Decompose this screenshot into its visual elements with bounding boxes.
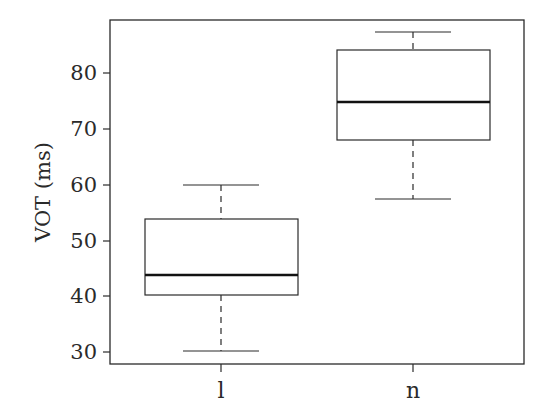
y-axis-label: VOT (ms) xyxy=(31,142,55,243)
box-l xyxy=(145,185,298,351)
y-axis xyxy=(103,73,110,352)
iqr-box-l xyxy=(145,219,298,295)
y-tick-label: 80 xyxy=(70,61,97,85)
y-tick-label: 70 xyxy=(70,117,97,141)
box-n xyxy=(337,32,490,199)
y-tick-labels: 80 70 60 50 40 30 xyxy=(70,61,97,364)
y-tick-label: 50 xyxy=(70,229,97,253)
y-tick-label: 40 xyxy=(70,284,97,308)
y-tick-label: 60 xyxy=(70,173,97,197)
y-tick-label: 30 xyxy=(70,340,97,364)
iqr-box-n xyxy=(337,50,490,140)
x-tick-label-l: l xyxy=(217,378,224,403)
plot-frame xyxy=(110,20,524,364)
boxplot-chart: 80 70 60 50 40 30 VOT (ms) l n xyxy=(0,0,554,418)
x-tick-label-n: n xyxy=(406,378,420,403)
x-axis xyxy=(221,364,413,372)
x-tick-labels: l n xyxy=(217,378,420,403)
